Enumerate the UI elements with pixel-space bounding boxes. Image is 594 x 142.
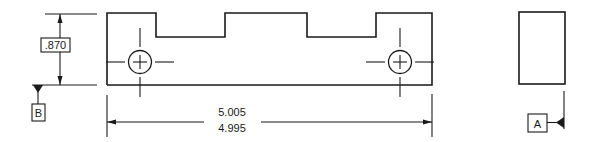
datum-b-label: B — [35, 107, 42, 119]
height-dimension: .870 — [32, 14, 97, 85]
arrowhead-right-icon — [423, 120, 432, 125]
datum-b: B — [32, 85, 45, 121]
datum-triangle-icon — [33, 85, 43, 93]
left-hole — [106, 28, 174, 97]
length-lower-limit: 4.995 — [218, 122, 246, 134]
part-outline — [107, 13, 432, 85]
datum-a: A — [528, 91, 564, 132]
datum-a-label: A — [534, 118, 542, 130]
height-value: .870 — [45, 39, 66, 51]
front-view — [106, 13, 434, 97]
side-view-outline — [519, 12, 565, 84]
arrowhead-up-icon — [58, 14, 63, 23]
right-hole — [366, 28, 434, 97]
side-view — [519, 12, 565, 84]
length-upper-limit: 5.005 — [218, 106, 246, 118]
arrowhead-down-icon — [58, 76, 63, 85]
length-dimension: 5.005 4.995 — [107, 94, 432, 137]
arrowhead-left-icon — [107, 120, 116, 125]
datum-triangle-icon — [556, 117, 564, 128]
engineering-drawing: .870 B — [0, 0, 594, 142]
